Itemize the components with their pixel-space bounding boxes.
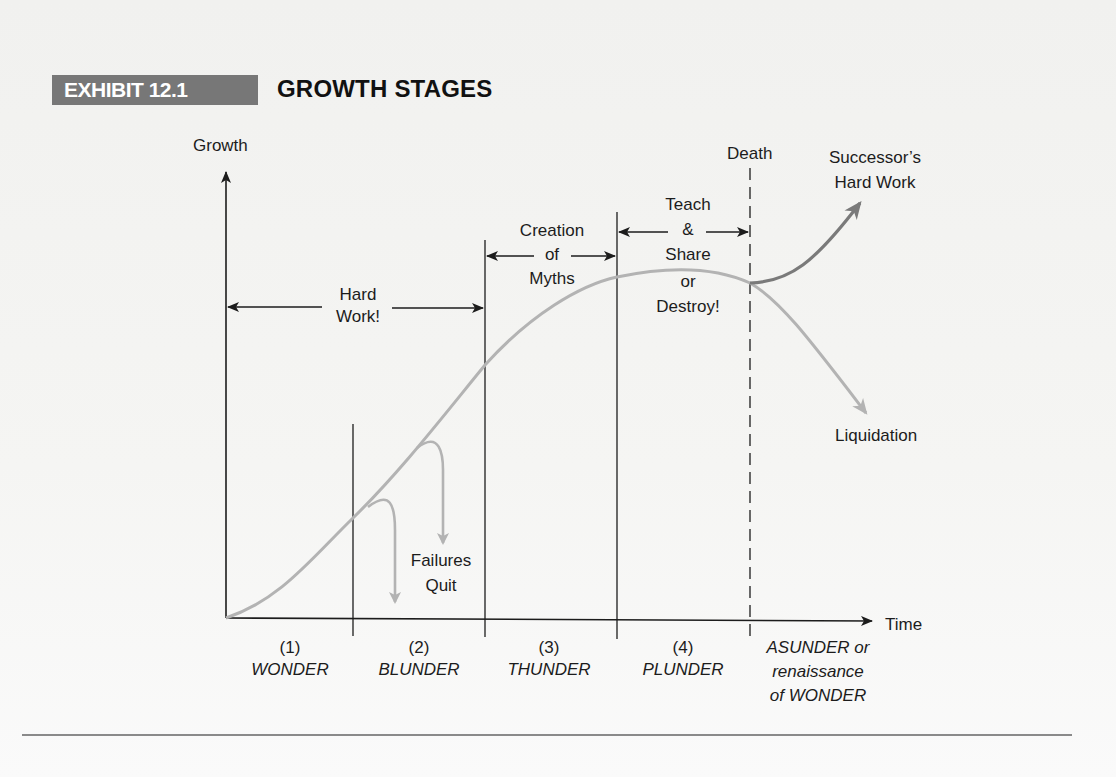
stage-name: WONDER (240, 659, 340, 681)
failure-arrow-1 (368, 500, 395, 602)
stage-5: ASUNDER or renaissance of WONDER (762, 637, 874, 707)
stage-number: (1) (240, 637, 340, 659)
death-label: Death (727, 143, 772, 165)
failures-line-1: Failures (403, 550, 479, 572)
x-axis (226, 618, 872, 621)
stage-2: (2) BLUNDER (369, 637, 469, 681)
stage-name-line-3: of WONDER (762, 685, 874, 707)
teach-share-label: Teach & Share or Destroy! (648, 194, 728, 318)
teach-line-2: & (648, 219, 728, 241)
hard-work-line-1: Hard (330, 284, 386, 306)
y-axis-label: Growth (193, 135, 248, 157)
growth-curve (226, 270, 750, 618)
stage-name: BLUNDER (369, 659, 469, 681)
liquidation-arrow (750, 283, 866, 413)
stage-number: (4) (633, 637, 733, 659)
stage-name: PLUNDER (633, 659, 733, 681)
stage-name-line-2: renaissance (762, 661, 874, 683)
hard-work-line-2: Work! (330, 306, 386, 328)
successor-line-2: Hard Work (820, 172, 930, 194)
myths-line-3: Myths (512, 268, 592, 290)
failure-arrow-2 (417, 442, 443, 543)
failures-quit-label: Failures Quit (403, 550, 479, 597)
stage-number: (2) (369, 637, 469, 659)
teach-line-4: or (648, 271, 728, 293)
hard-work-label: Hard Work! (330, 284, 386, 328)
successor-line-1: Successor’s (820, 147, 930, 169)
successor-label: Successor’s Hard Work (820, 147, 930, 194)
stage-1: (1) WONDER (240, 637, 340, 681)
teach-line-5: Destroy! (648, 296, 728, 318)
successor-arrow (750, 203, 860, 283)
stage-4: (4) PLUNDER (633, 637, 733, 681)
creation-of-myths-label: Creation of Myths (512, 220, 592, 290)
teach-line-3: Share (648, 244, 728, 266)
bottom-rule (22, 734, 1072, 736)
stage-name-line-1: ASUNDER or (762, 637, 874, 659)
x-axis-label: Time (885, 614, 922, 636)
myths-line-2: of (512, 244, 592, 266)
stage-number: (3) (499, 637, 599, 659)
teach-line-1: Teach (648, 194, 728, 216)
stage-3: (3) THUNDER (499, 637, 599, 681)
stage-name: THUNDER (499, 659, 599, 681)
liquidation-label: Liquidation (835, 425, 917, 447)
myths-line-1: Creation (512, 220, 592, 242)
failures-line-2: Quit (403, 575, 479, 597)
